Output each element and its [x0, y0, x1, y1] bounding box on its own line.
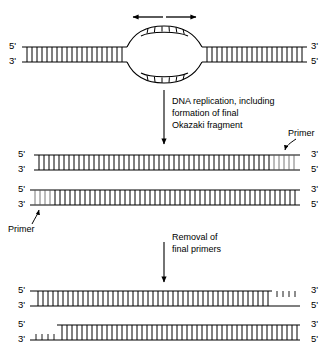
stage3-top-right-five-prime: 5' [311, 299, 318, 310]
stage-3-bottom-gap-ticks [36, 334, 54, 340]
stage1-right-three-prime: 3' [311, 40, 318, 51]
stage3-bottom-right-three-prime: 3' [311, 318, 318, 329]
stage2-bottom-right-three-prime: 3' [311, 183, 318, 194]
replication-bubble [127, 26, 202, 83]
stage-2-bottom-duplex [30, 190, 300, 205]
stage-2-top-primer-region [274, 155, 294, 170]
stage3-top-left-three-prime: 3' [18, 299, 25, 310]
step2-text-line2: final primers [172, 244, 221, 256]
primer-callout-bottom [32, 210, 39, 224]
stage-2-replicated-duplexes [30, 139, 300, 224]
stage3-bottom-left-five-prime: 5' [18, 318, 25, 329]
stage1-right-five-prime: 5' [311, 55, 318, 66]
step2-text-line1: Removal of [172, 232, 218, 244]
stage2-bottom-right-five-prime: 5' [311, 198, 318, 209]
stage1-left-three-prime: 3' [9, 55, 16, 66]
stage2-top-left-five-prime: 5' [18, 148, 25, 159]
step1-text-line2: formation of final [172, 108, 239, 120]
stage2-top-left-three-prime: 3' [18, 163, 25, 174]
stage2-bottom-left-three-prime: 3' [18, 198, 25, 209]
stage-3-top-duplex [30, 291, 300, 306]
stage2-bottom-left-five-prime: 5' [18, 183, 25, 194]
stage-2-bottom-primer-region [35, 190, 50, 205]
stage1-left-arm [22, 47, 127, 62]
primer-label-top: Primer [288, 128, 315, 138]
primer-label-bottom: Primer [8, 224, 35, 234]
stage2-top-right-three-prime: 3' [311, 148, 318, 159]
stage1-right-arm [202, 47, 307, 62]
stage-3-bottom-duplex [30, 325, 300, 340]
primer-callout-top [285, 139, 296, 150]
stage3-bottom-right-five-prime: 5' [311, 333, 318, 344]
stage3-top-left-five-prime: 5' [18, 284, 25, 295]
stage3-bottom-left-three-prime: 3' [18, 333, 25, 344]
stage2-top-right-five-prime: 5' [311, 163, 318, 174]
step1-text-line3: Okazaki fragment [172, 120, 243, 132]
diagram-canvas [0, 0, 329, 352]
stage3-top-right-three-prime: 3' [311, 284, 318, 295]
stage1-left-five-prime: 5' [9, 40, 16, 51]
step1-text-line1: DNA replication, including [172, 96, 275, 108]
stage-1-replication-bubble [22, 17, 307, 83]
stage-3-primers-removed [30, 291, 300, 340]
dna-replication-diagram: 5' 3' 3' 5' DNA replication, including f… [0, 0, 329, 352]
stage-3-top-gap-ticks [277, 291, 295, 297]
stage-2-top-duplex [34, 155, 300, 170]
